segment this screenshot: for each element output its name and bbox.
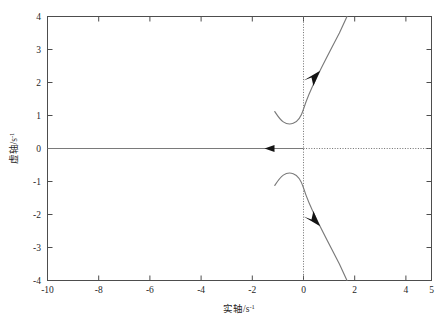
x-tick-label-4: 4 — [404, 285, 409, 295]
plot-background — [0, 0, 446, 319]
x-axis-title-superscript: -1 — [249, 303, 254, 310]
x-tick-label--2: -2 — [248, 285, 256, 295]
x-tick-label--4: -4 — [197, 285, 205, 295]
y-tick-label-2: 2 — [36, 78, 41, 88]
y-tick-label--2: -2 — [33, 210, 41, 220]
y-tick-label-1: 1 — [36, 111, 41, 121]
x-tick-label--8: -8 — [95, 285, 103, 295]
y-tick-label--1: -1 — [33, 177, 41, 187]
x-tick-label-2: 2 — [352, 285, 357, 295]
x-tick-label-0: 0 — [301, 285, 306, 295]
root-locus-figure: -10 -8 -6 -4 -2 0 2 4 5 4 3 2 1 0 -1 -2 … — [0, 0, 446, 319]
x-tick-label--6: -6 — [146, 285, 154, 295]
y-tick-label-4: 4 — [36, 12, 41, 22]
y-tick-label--4: -4 — [33, 276, 41, 286]
y-tick-label--3: -3 — [33, 243, 41, 253]
y-tick-label-3: 3 — [36, 45, 41, 55]
x-tick-label--10: -10 — [41, 285, 54, 295]
y-axis-title-superscript: -1 — [8, 133, 15, 138]
y-axis-title-text: 虚轴/s — [8, 138, 19, 165]
plot-canvas: -10 -8 -6 -4 -2 0 2 4 5 4 3 2 1 0 -1 -2 … — [0, 0, 446, 319]
x-axis-title-text: 实轴/s — [223, 303, 250, 314]
x-tick-label-5: 5 — [429, 285, 434, 295]
y-tick-label-0: 0 — [36, 144, 41, 154]
